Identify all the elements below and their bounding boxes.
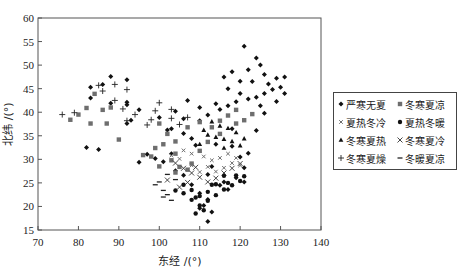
data-point — [222, 166, 226, 170]
data-point — [282, 74, 287, 79]
data-point — [234, 108, 238, 112]
data-point — [185, 180, 190, 185]
data-point — [230, 144, 235, 149]
legend-label: 冬寒夏热 — [346, 133, 386, 148]
data-point — [250, 79, 255, 84]
x-tick-label: 80 — [73, 236, 85, 248]
data-point — [168, 115, 174, 121]
data-point — [189, 188, 193, 192]
data-point — [209, 210, 214, 215]
data-point — [197, 175, 202, 180]
data-point — [137, 160, 142, 165]
data-point — [177, 185, 182, 190]
data-point — [214, 170, 218, 174]
y-tick-label: 60 — [23, 12, 35, 24]
data-point — [169, 158, 173, 162]
data-point — [206, 165, 210, 169]
data-point — [197, 105, 202, 110]
data-point — [238, 154, 243, 159]
data-point — [128, 118, 133, 123]
data-point — [262, 111, 267, 116]
data-point — [165, 178, 170, 183]
data-point — [181, 173, 186, 178]
data-point — [177, 121, 183, 127]
data-point — [84, 145, 89, 150]
data-point — [165, 132, 169, 136]
data-point — [145, 152, 150, 157]
series-xsmall — [170, 149, 242, 174]
data-point — [210, 125, 214, 129]
data-point — [234, 173, 238, 177]
data-point — [250, 112, 254, 116]
data-point — [206, 199, 210, 203]
data-point — [242, 136, 247, 140]
data-point — [218, 123, 223, 127]
data-point — [153, 146, 157, 150]
legend-label: 夏热冬冷 — [346, 115, 386, 130]
diamond-marker-icon — [337, 100, 345, 108]
data-point — [254, 56, 259, 61]
data-point — [198, 170, 202, 174]
x-tick-label: 70 — [33, 236, 45, 248]
data-point — [181, 166, 186, 171]
data-point — [100, 88, 106, 94]
data-point — [182, 149, 186, 153]
data-point — [214, 193, 218, 197]
data-point — [210, 158, 214, 162]
data-point — [84, 106, 88, 110]
data-point — [282, 91, 287, 96]
data-point — [274, 99, 279, 104]
data-point — [226, 126, 231, 130]
y-tick-label: 45 — [23, 83, 35, 95]
x-tick-label: 130 — [272, 236, 289, 248]
data-point — [173, 161, 178, 166]
data-point — [218, 132, 222, 136]
data-point — [108, 74, 113, 79]
data-point — [149, 154, 153, 158]
data-point — [185, 114, 191, 120]
legend-item: 冬寒夏凉 — [396, 97, 453, 112]
data-point — [197, 142, 202, 146]
y-tick-label: 20 — [23, 200, 35, 212]
data-point — [206, 140, 210, 144]
data-point — [144, 122, 150, 128]
data-point — [88, 96, 93, 101]
data-point — [209, 164, 214, 169]
cross-marker-icon — [396, 136, 404, 144]
data-point — [209, 119, 214, 123]
data-point — [117, 137, 121, 141]
data-point — [173, 188, 177, 192]
y-tick-label: 25 — [23, 177, 35, 189]
data-point — [153, 156, 158, 161]
data-point — [238, 91, 243, 96]
data-point — [242, 179, 247, 184]
data-point — [201, 203, 206, 208]
data-point — [156, 100, 162, 106]
data-point — [217, 107, 222, 112]
series-square — [68, 92, 254, 175]
legend-item: 严寒无夏 — [337, 97, 394, 112]
x-axis-ticks: 708090100110120130140 — [33, 226, 330, 248]
data-point — [100, 82, 105, 87]
data-point — [222, 136, 227, 140]
data-point — [205, 179, 210, 184]
data-point — [214, 182, 218, 186]
y-tick-label: 50 — [23, 59, 35, 71]
x-tick-label: 140 — [313, 236, 330, 248]
data-point — [210, 183, 214, 187]
xsmall-marker-icon — [337, 118, 345, 126]
y-axis-ticks: 15202530354045505560 — [23, 12, 42, 236]
data-point — [173, 151, 177, 155]
data-point — [238, 79, 243, 84]
legend-item: 冬寒夏燥 — [337, 151, 394, 166]
data-point — [88, 121, 92, 125]
data-point — [218, 119, 222, 123]
x-tick-label: 120 — [232, 236, 249, 248]
data-point — [181, 191, 185, 195]
data-point — [266, 81, 271, 86]
data-point — [205, 219, 210, 224]
data-point — [230, 126, 235, 131]
data-point — [112, 81, 118, 87]
data-point — [178, 157, 182, 161]
data-point — [152, 108, 158, 114]
